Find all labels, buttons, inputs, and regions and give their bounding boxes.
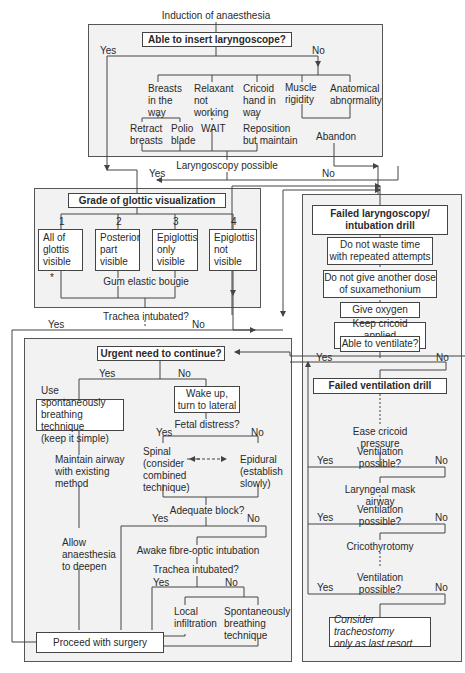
option-local-infiltration: Local infiltration <box>174 606 217 630</box>
label-yes-vent-1: Yes <box>317 455 333 467</box>
asterisk-note: * <box>50 272 54 284</box>
label-no-vent-1: No <box>435 455 448 467</box>
box-spontaneous-technique: Use spontaneously breathing technique (k… <box>36 399 124 431</box>
start-label: Induction of anaesthesia <box>162 10 270 22</box>
step-no-suxamethonium: Do not give another dose of suxamethoniu… <box>323 270 437 298</box>
option-spontaneous-breathing: Spontaneously breathing technique <box>224 606 290 642</box>
title-glottic-grade: Grade of glottic visualization <box>68 193 226 208</box>
label-no-fetal: No <box>251 427 264 439</box>
step-give-oxygen: Give oxygen <box>340 302 420 318</box>
action-reposition: Reposition but maintain <box>243 123 297 147</box>
box-proceed-with-surgery: Proceed with surgery <box>36 632 164 653</box>
question-insert-laryngoscope: Able to insert laryngoscope? <box>142 32 292 47</box>
label-yes-glottic: Yes <box>149 168 165 180</box>
label-no-trachea-2: No <box>225 577 238 589</box>
label-no-vent-2: No <box>435 512 448 524</box>
question-trachea-intubated: Trachea intubated? <box>103 311 189 323</box>
question-ventilation-2: Ventilation possible? <box>338 504 423 528</box>
label-maintain-airway: Maintain airway with existing method <box>55 454 124 490</box>
label-yes-vent-2: Yes <box>317 512 333 524</box>
label-no-failed: No <box>322 168 335 180</box>
cause-anatomical: Anatomical abnormality <box>330 83 382 107</box>
label-no-adequate: No <box>247 513 260 525</box>
box-wake-up: Wake up, turn to lateral <box>174 386 240 413</box>
option-epidural: Epidural (establish slowly) <box>240 454 283 490</box>
label-yes-trachea-2: Yes <box>153 577 169 589</box>
label-allow-anaesthesia: Allow anaesthesia to deepen <box>62 537 116 573</box>
grade-num-1: 1 <box>59 216 65 228</box>
label-no-trachea: No <box>192 319 205 331</box>
label-awake-fibreoptic: Awake fibre-optic intubation <box>137 545 260 557</box>
question-able-ventilate-label: Able to ventilate? <box>342 338 419 350</box>
cause-breasts: Breasts in the way <box>148 83 182 119</box>
label-laryngoscopy-possible: Laryngoscopy possible <box>176 160 278 172</box>
cause-relaxant: Relaxant not working <box>194 83 233 119</box>
grade-num-4: 4 <box>231 216 237 228</box>
label-no-vent-3: No <box>435 582 448 594</box>
cause-muscle: Muscle rigidity <box>285 82 317 106</box>
cause-cricoid: Cricoid hand in way <box>243 83 276 119</box>
title-failed-ventilation-drill: Failed ventilation drill <box>313 378 447 394</box>
question-ventilation-1: Ventilation possible? <box>338 446 423 470</box>
label-yes-laryngoscope: Yes <box>100 45 116 57</box>
label-yes-fetal: Yes <box>156 427 172 439</box>
box-consider-tracheostomy: Consider tracheostomy only as last resor… <box>329 617 431 647</box>
label-yes-ventilate: Yes <box>316 352 332 364</box>
label-yes-urgent: Yes <box>99 368 115 380</box>
question-trachea-intubated-2: Trachea intubated? <box>153 564 239 576</box>
label-no-laryngoscope: No <box>312 45 325 57</box>
grade-num-3: 3 <box>173 216 179 228</box>
label-no-ventilate: No <box>436 352 449 364</box>
label-no-urgent: No <box>178 368 191 380</box>
step-no-repeated-attempts: Do not waste time with repeated attempts <box>327 237 433 265</box>
grade-box-4: Epiglottis not visible <box>209 229 257 271</box>
action-polio: Polio blade <box>171 123 195 147</box>
label-yes-trachea: Yes <box>48 319 64 331</box>
label-gum-elastic-bougie: Gum elastic bougie <box>103 276 189 288</box>
title-failed-laryngoscopy-drill: Failed laryngoscopy/ intubation drill <box>312 205 448 235</box>
option-spinal: Spinal (consider combined technique) <box>143 446 190 494</box>
question-urgent-need: Urgent need to continue? <box>97 346 225 361</box>
action-abandon: Abandon <box>316 131 356 143</box>
question-fetal-distress: Fetal distress? <box>174 419 239 431</box>
grade-box-1: All of glottis visible <box>38 229 83 271</box>
grade-num-2: 2 <box>116 216 122 228</box>
question-ventilation-3: Ventilation possible? <box>338 572 423 596</box>
box-able-to-ventilate: Able to ventilate? <box>340 336 420 352</box>
step-cricothyrotomy: Cricothyrotomy <box>346 541 413 553</box>
label-yes-vent-3: Yes <box>317 582 333 594</box>
action-retract: Retract breasts <box>130 123 163 147</box>
label-yes-adequate: Yes <box>152 513 168 525</box>
grade-box-2: Posterior part visible <box>95 229 140 271</box>
action-wait: WAIT <box>201 123 226 135</box>
grade-box-3: Epiglottis only visible <box>152 229 198 271</box>
question-adequate-block: Adequate block? <box>170 505 245 517</box>
